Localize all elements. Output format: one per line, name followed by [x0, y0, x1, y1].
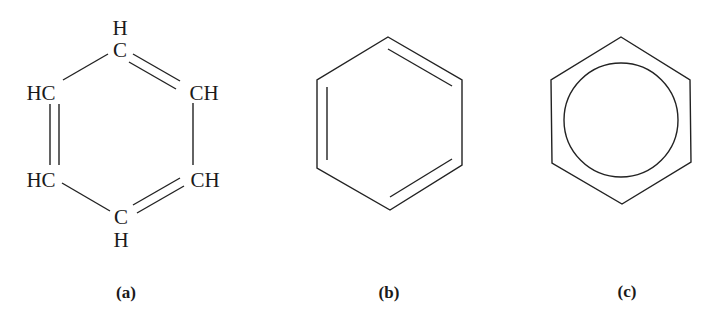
- double-bond-top-right: [388, 49, 452, 86]
- benzene-figure: H C HC CH HC CH C H (a): [0, 0, 707, 313]
- bonds-a: [50, 54, 193, 213]
- aromatic-circle: [564, 63, 678, 177]
- atom-top-h: H: [112, 16, 127, 40]
- caption-b: (b): [379, 283, 400, 302]
- hexagon-c: [551, 37, 691, 204]
- structure-a: H C HC CH HC CH C H (a): [26, 16, 219, 302]
- caption-c: (c): [618, 282, 637, 301]
- structure-b: (b): [317, 37, 462, 302]
- atom-lower-right: CH: [190, 168, 219, 192]
- hexagon-b: [317, 37, 462, 210]
- atom-upper-left: HC: [26, 81, 55, 105]
- atom-top-c: C: [113, 38, 127, 62]
- atom-bottom-c: C: [114, 205, 128, 229]
- caption-a: (a): [116, 283, 136, 302]
- structure-c: (c): [551, 37, 691, 301]
- atom-lower-left: HC: [26, 168, 55, 192]
- atom-bottom-h: H: [113, 228, 128, 252]
- atom-upper-right: CH: [189, 81, 218, 105]
